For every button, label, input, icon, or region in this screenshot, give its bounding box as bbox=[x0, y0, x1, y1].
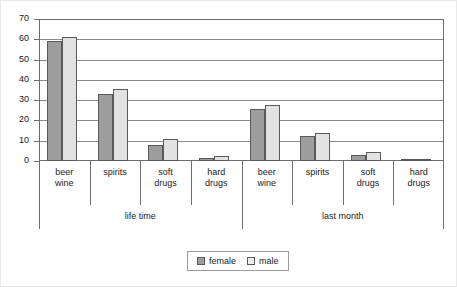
bar-group bbox=[292, 19, 343, 161]
category-label: spirits bbox=[292, 167, 343, 178]
category-label-line2: drugs bbox=[343, 178, 394, 189]
y-axis-tick-label: 40 bbox=[0, 75, 29, 84]
bar-group bbox=[140, 19, 191, 161]
y-axis-tick-label: 20 bbox=[0, 115, 29, 124]
bar-male bbox=[62, 37, 77, 161]
bar-group bbox=[191, 19, 242, 161]
category-label-line2: wine bbox=[39, 178, 90, 189]
bar-group bbox=[343, 19, 394, 161]
bar-male bbox=[366, 152, 381, 161]
legend-label: female bbox=[209, 257, 236, 266]
category-label: harddrugs bbox=[191, 167, 242, 189]
y-axis-tick-label: 0 bbox=[0, 156, 29, 165]
category-label-line1: hard bbox=[393, 167, 444, 178]
bar-chart: 706050403020100 beerwinespiritssoftdrugs… bbox=[0, 0, 457, 287]
bar-female bbox=[148, 145, 163, 161]
group-label: last month bbox=[242, 211, 445, 222]
category-label-line1: soft bbox=[140, 167, 191, 178]
legend-item: male bbox=[247, 257, 279, 266]
chart-legend: femalemale bbox=[187, 251, 289, 271]
category-label: softdrugs bbox=[343, 167, 394, 189]
category-label-line2: drugs bbox=[191, 178, 242, 189]
category-label-line1: spirits bbox=[90, 167, 141, 178]
bar-female bbox=[47, 41, 62, 161]
category-label-line1: spirits bbox=[292, 167, 343, 178]
bar-group bbox=[242, 19, 293, 161]
bar-male bbox=[113, 89, 128, 161]
category-label: beerwine bbox=[242, 167, 293, 189]
y-axis-tick-label: 50 bbox=[0, 55, 29, 64]
category-label-line1: beer bbox=[242, 167, 293, 178]
y-axis-tick-label: 30 bbox=[0, 95, 29, 104]
bar-group bbox=[90, 19, 141, 161]
bar-male bbox=[265, 105, 280, 161]
group-axis: life timelast month bbox=[39, 205, 444, 235]
bar-male bbox=[315, 133, 330, 161]
legend-swatch-icon bbox=[197, 257, 205, 265]
bars-layer bbox=[39, 19, 444, 161]
y-axis-tick-label: 70 bbox=[0, 14, 29, 23]
legend-item: female bbox=[197, 257, 236, 266]
category-label-line1: hard bbox=[191, 167, 242, 178]
bar-group bbox=[393, 19, 444, 161]
category-label: harddrugs bbox=[393, 167, 444, 189]
category-label-line2: drugs bbox=[393, 178, 444, 189]
bar-female bbox=[98, 94, 113, 161]
category-label: beerwine bbox=[39, 167, 90, 189]
category-label-line1: beer bbox=[39, 167, 90, 178]
category-label-line2: drugs bbox=[140, 178, 191, 189]
bar-male bbox=[163, 139, 178, 161]
category-label-line2: wine bbox=[242, 178, 293, 189]
legend-label: male bbox=[259, 257, 279, 266]
legend-swatch-icon bbox=[247, 257, 255, 265]
category-label: spirits bbox=[90, 167, 141, 178]
y-axis-tick-label: 10 bbox=[0, 136, 29, 145]
y-axis-tick-label: 60 bbox=[0, 34, 29, 43]
bar-group bbox=[39, 19, 90, 161]
group-label: life time bbox=[39, 211, 242, 222]
bar-female bbox=[250, 109, 265, 161]
category-axis: beerwinespiritssoftdrugsharddrugsbeerwin… bbox=[39, 161, 444, 211]
category-label: softdrugs bbox=[140, 167, 191, 189]
bar-female bbox=[300, 136, 315, 161]
category-label-line1: soft bbox=[343, 167, 394, 178]
